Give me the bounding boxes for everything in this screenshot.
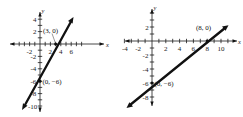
figure-root: (3, 0) (0, −6) -2 2 4 6 4 2 -2 -4 -6 -8 … bbox=[0, 0, 243, 117]
tick-label-y-4-left: 4 bbox=[33, 16, 37, 24]
tick-label-y--4-left: -4 bbox=[30, 65, 36, 73]
point-label-x-intercept-right: (8, 0) bbox=[196, 24, 212, 32]
point-dot-x-intercept-right bbox=[206, 40, 209, 43]
tick-label-x-6-left: 6 bbox=[69, 48, 73, 56]
tick-label-x--4-right: -4 bbox=[122, 45, 128, 53]
coordinate-plane-right: (8, 0) (0, −6) -4 -2 2 4 6 8 10 2 -2 -4 … bbox=[122, 0, 243, 117]
tick-label-y--6-right: -6 bbox=[143, 80, 149, 88]
x-axis-arrow-right-tail bbox=[125, 39, 130, 42]
graph-panel-right: (8, 0) (0, −6) -4 -2 2 4 6 8 10 2 -2 -4 … bbox=[122, 0, 243, 117]
tick-label-y--10-left: -10 bbox=[28, 103, 38, 111]
point-dot-y-intercept-left bbox=[39, 80, 42, 83]
plot-line-arrow-down-left bbox=[22, 103, 28, 110]
tick-label-x-8-right: 8 bbox=[205, 45, 209, 53]
x-axis-arrow-left bbox=[100, 42, 105, 45]
tick-label-y--2-left: -2 bbox=[30, 53, 36, 61]
tick-label-x-4-left: 4 bbox=[59, 48, 63, 56]
x-axis-arrow-left-tail bbox=[10, 42, 15, 45]
tick-label-x-4-right: 4 bbox=[178, 45, 182, 53]
tick-label-x--2-right: -2 bbox=[135, 45, 141, 53]
point-label-y-intercept-right: (0, −6) bbox=[155, 80, 175, 88]
y-axis-arrow-right-tail bbox=[150, 102, 153, 107]
tick-label-y--2-right: -2 bbox=[143, 52, 149, 60]
tick-label-y-2-left: 2 bbox=[33, 28, 37, 36]
tick-label-x-10-right: 10 bbox=[217, 45, 225, 53]
y-axis-arrow-left-tail bbox=[38, 108, 41, 113]
tick-label-y--8-right: -8 bbox=[143, 94, 149, 102]
tick-label-y--6-left: -6 bbox=[30, 78, 36, 86]
tick-label-y-2-right: 2 bbox=[145, 24, 149, 32]
tick-label-x-6-right: 6 bbox=[192, 45, 196, 53]
tick-label-x-2-left: 2 bbox=[49, 48, 53, 56]
y-axis-label-left: y bbox=[41, 7, 45, 14]
tick-label-y--8-left: -8 bbox=[30, 90, 36, 98]
point-label-x-intercept-left: (3, 0) bbox=[43, 27, 59, 35]
point-dot-y-intercept-right bbox=[151, 82, 154, 85]
y-axis-label-right: y bbox=[153, 4, 157, 11]
x-axis-arrow-right bbox=[233, 39, 238, 42]
x-axis-label-right: x bbox=[237, 38, 241, 45]
tick-label-x-2-right: 2 bbox=[164, 45, 168, 53]
point-dot-x-intercept-left bbox=[54, 43, 57, 46]
graph-panel-left: (3, 0) (0, −6) -2 2 4 6 4 2 -2 -4 -6 -8 … bbox=[0, 0, 122, 117]
tick-label-y--4-right: -4 bbox=[143, 66, 149, 74]
coordinate-plane-left: (3, 0) (0, −6) -2 2 4 6 4 2 -2 -4 -6 -8 … bbox=[0, 0, 122, 117]
x-axis-label-left: x bbox=[105, 41, 109, 48]
point-label-y-intercept-left: (0, −6) bbox=[43, 78, 63, 86]
